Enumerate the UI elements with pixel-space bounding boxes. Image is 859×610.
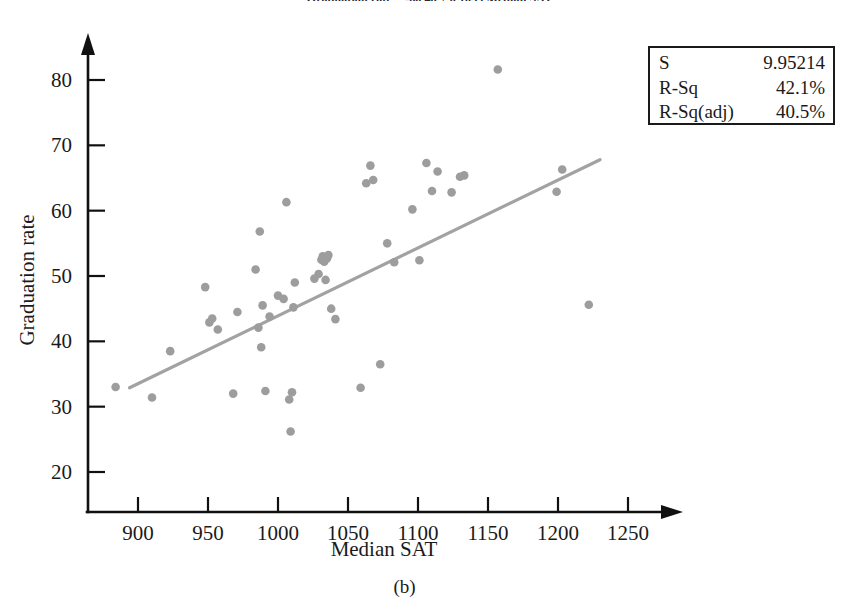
data-point (552, 187, 561, 196)
x-tick-label: 1000 (257, 521, 299, 545)
data-point (291, 278, 300, 287)
x-tick-label: 1150 (467, 521, 508, 545)
data-point (408, 205, 417, 214)
legend-key-rsq-adj: R-Sq(adj) (659, 100, 734, 125)
y-tick-label: 40 (51, 329, 72, 353)
stats-legend-box: S 9.95214 R-Sq 42.1% R-Sq(adj) 40.5% (648, 46, 835, 125)
data-point-group (111, 65, 593, 436)
data-point (279, 295, 288, 304)
data-point (261, 387, 270, 396)
y-tick-label: 80 (51, 68, 72, 92)
data-point (201, 283, 210, 292)
data-point (289, 303, 298, 312)
data-point (331, 315, 340, 324)
data-point (447, 188, 456, 197)
y-tick-label: 60 (51, 199, 72, 223)
x-axis-arrow-icon (661, 505, 683, 519)
y-tick-label: 20 (51, 460, 72, 484)
data-point (254, 323, 263, 332)
figure-panel: Graduation rate = -60.46 + 0.1039 Median… (0, 0, 859, 610)
data-point (166, 347, 175, 356)
data-point (257, 343, 266, 352)
data-point (356, 383, 365, 392)
legend-value-rsq-adj: 40.5% (776, 100, 825, 125)
data-point (433, 167, 442, 176)
y-ticklabel-group: 20304050607080 (51, 68, 72, 484)
data-point (208, 314, 217, 323)
y-axis-title: Graduation rate (15, 214, 39, 345)
data-point (558, 165, 567, 174)
x-tick-group (138, 497, 628, 512)
data-point (111, 383, 120, 392)
data-point (460, 171, 469, 180)
data-point (390, 258, 399, 267)
data-point (288, 388, 297, 397)
figure-caption: (b) (0, 576, 859, 598)
y-tick-label: 50 (51, 264, 72, 288)
data-point (265, 312, 274, 321)
legend-row: S 9.95214 (659, 51, 825, 76)
legend-value-s: 9.95214 (763, 51, 825, 76)
data-point (258, 301, 267, 310)
data-point (321, 276, 330, 285)
x-tick-label: 1250 (607, 521, 649, 545)
data-point (251, 265, 260, 274)
legend-key-rsq: R-Sq (659, 76, 698, 101)
y-tick-group (88, 80, 105, 472)
data-point (422, 159, 431, 168)
regression-line (130, 160, 600, 388)
data-point (286, 427, 295, 436)
axes-group (81, 33, 683, 519)
data-point (233, 308, 242, 317)
data-point (415, 256, 424, 265)
data-point (229, 389, 238, 398)
data-point (383, 239, 392, 248)
x-axis-title: Median SAT (331, 537, 438, 561)
figure-caption-text: (b) (393, 576, 415, 597)
legend-row: R-Sq 42.1% (659, 76, 825, 101)
x-tick-label: 1200 (537, 521, 579, 545)
data-point (376, 360, 385, 369)
data-point (369, 176, 378, 185)
data-point (428, 187, 437, 196)
legend-value-rsq: 42.1% (776, 76, 825, 101)
data-point (324, 251, 333, 260)
data-point (282, 198, 291, 207)
data-point (585, 300, 594, 309)
x-tick-label: 950 (192, 521, 224, 545)
y-axis-arrow-icon (81, 33, 95, 55)
legend-row: R-Sq(adj) 40.5% (659, 100, 825, 125)
data-point (255, 227, 264, 236)
data-point (314, 270, 323, 279)
y-tick-label: 70 (51, 133, 72, 157)
data-point (494, 65, 503, 74)
data-point (327, 304, 336, 313)
legend-key-s: S (659, 51, 670, 76)
data-point (366, 161, 375, 170)
data-point (148, 393, 157, 402)
data-point (214, 325, 223, 334)
y-tick-label: 30 (51, 395, 72, 419)
x-tick-label: 900 (122, 521, 154, 545)
